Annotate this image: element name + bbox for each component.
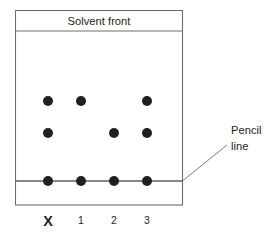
- lane-label-2: 2: [111, 214, 117, 226]
- pencil-line-leader: [183, 145, 227, 181]
- pencil-line-callout-line2: line: [231, 140, 248, 152]
- chromatography-diagram: Solvent front Pencil line X 1 2 3: [0, 0, 274, 235]
- spot-lane-x-baseline: [43, 176, 53, 186]
- spot-lane-2-baseline: [109, 176, 119, 186]
- pencil-line-callout-line1: Pencil: [231, 124, 261, 136]
- solvent-front-label: Solvent front: [68, 15, 132, 27]
- spot-lane-x-top: [43, 96, 53, 106]
- spot-lane-3-top: [142, 96, 152, 106]
- spot-lane-3-middle: [142, 128, 152, 138]
- lane-label-3: 3: [144, 214, 150, 226]
- chromatography-plate-outline: [16, 11, 183, 206]
- spot-lane-x-middle: [43, 128, 53, 138]
- spot-lane-1-top: [76, 96, 86, 106]
- chromatography-plate-svg: Solvent front Pencil line X 1 2 3: [0, 0, 274, 235]
- lane-label-x: X: [43, 213, 53, 229]
- spot-lane-3-baseline: [142, 176, 152, 186]
- spot-lane-1-baseline: [76, 176, 86, 186]
- lane-label-1: 1: [78, 214, 84, 226]
- spot-lane-2-middle: [109, 128, 119, 138]
